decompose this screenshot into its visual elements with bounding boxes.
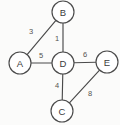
graph-node-label-a: A — [17, 58, 24, 69]
graph-edge-d-c — [62, 74, 63, 100]
graph-node-label-d: D — [60, 58, 67, 69]
edge-weight-a-d: 5 — [39, 51, 43, 60]
graph-edge-d-e — [74, 62, 96, 63]
nodes-group: ABCDE — [9, 1, 118, 122]
edge-weight-d-c: 4 — [55, 81, 59, 90]
graph-node-label-b: B — [60, 7, 66, 18]
edge-weight-b-d: 1 — [55, 34, 59, 43]
graph-edge-c-e — [69, 70, 99, 103]
graph-node-label-e: E — [104, 57, 110, 68]
graph-canvas: 315648 ABCDE — [0, 0, 120, 125]
graph-figure: 315648 ABCDE — [0, 0, 120, 125]
edge-weight-c-e: 8 — [88, 89, 92, 98]
graph-node-label-c: C — [59, 106, 66, 117]
edge-weight-a-b: 3 — [29, 27, 33, 36]
edge-weight-d-e: 6 — [83, 50, 87, 59]
